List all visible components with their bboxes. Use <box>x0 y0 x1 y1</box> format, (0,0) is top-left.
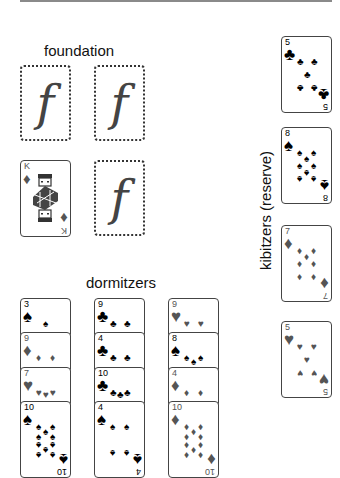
card-rank: 5 <box>323 387 328 396</box>
spade-icon: ♠ <box>110 448 115 458</box>
heart-icon: ♥ <box>43 390 49 400</box>
dormitzer-col3-card4[interactable]: 10 ♦ ♦ ♦ ♦ ♦ ♦ ♦ ♦ ♦ ♦ ♦ ♦ 10 <box>168 401 219 478</box>
foundation-slot-4[interactable]: f <box>94 160 145 236</box>
club-icon: ♣ <box>124 388 131 398</box>
spade-icon: ♠ <box>43 427 48 437</box>
diamond-icon: ♦ <box>50 353 55 363</box>
diamond-icon: ♦ <box>297 272 302 282</box>
spade-icon: ♠ <box>304 154 309 164</box>
card-rank: K <box>61 226 67 235</box>
club-icon: ♣ <box>311 83 318 93</box>
heart-icon: ♥ <box>311 342 317 352</box>
diamond-icon: ♦ <box>198 388 203 398</box>
empty-foundation-icon: f <box>111 174 129 222</box>
spade-icon: ♠ <box>23 411 32 428</box>
spade-icon: ♠ <box>304 168 309 178</box>
spade-icon: ♠ <box>311 161 316 171</box>
heart-icon: ♥ <box>297 368 303 378</box>
diamond-icon: ♦ <box>207 451 216 468</box>
spade-icon: ♠ <box>133 451 142 468</box>
reserve-card-3[interactable]: 7 ♦ ♦ ♦ ♦ ♦ ♦ ♦ ♦ ♦ 7 <box>281 225 332 302</box>
club-icon: ♣ <box>297 57 304 67</box>
spade-icon: ♠ <box>43 445 48 455</box>
club-icon: ♣ <box>97 308 108 325</box>
card-rank: 5 <box>323 102 328 111</box>
card-rank: 10 <box>57 467 67 476</box>
diamond-icon: ♦ <box>311 272 316 282</box>
card-rank: 4 <box>136 467 141 476</box>
spade-icon: ♠ <box>297 161 302 171</box>
spade-icon: ♠ <box>198 353 203 363</box>
foundation-slot-2[interactable]: f <box>94 65 145 141</box>
empty-foundation-icon: f <box>111 79 129 127</box>
diamond-icon: ♦ <box>191 445 196 455</box>
spade-icon: ♠ <box>59 451 68 468</box>
spade-icon: ♠ <box>320 177 329 194</box>
club-icon: ♣ <box>318 86 329 103</box>
diamond-icon: ♦ <box>171 411 180 428</box>
foundation-slot-1[interactable]: f <box>20 65 71 141</box>
club-icon: ♣ <box>110 388 117 398</box>
spade-icon: ♠ <box>297 148 302 158</box>
spade-icon: ♠ <box>311 174 316 184</box>
heart-icon: ♥ <box>184 319 190 329</box>
dormitzer-col2-card4[interactable]: 4 ♠ ♠ ♠ ♠ ♠ ♠ 4 <box>94 401 145 478</box>
reserve-card-1[interactable]: 5 ♣ ♣ ♣ ♣ ♣ ♣ ♣ 5 <box>281 36 332 113</box>
club-icon: ♣ <box>110 319 117 329</box>
diamond-icon: ♦ <box>23 342 32 359</box>
club-icon: ♣ <box>284 46 295 63</box>
club-icon: ♣ <box>117 390 124 400</box>
spade-icon: ♠ <box>124 422 129 432</box>
spade-icon: ♠ <box>110 422 115 432</box>
spade-icon: ♠ <box>23 308 32 325</box>
club-icon: ♣ <box>124 319 131 329</box>
heart-icon: ♥ <box>198 319 204 329</box>
card-rank: 8 <box>323 193 328 202</box>
heart-icon: ♥ <box>171 308 181 325</box>
reserve-label: kibitzers (reserve) <box>257 141 274 281</box>
spade-icon: ♠ <box>124 448 129 458</box>
foundation-slot-3-king-of-diamonds[interactable]: K ♦ ♦ K <box>20 160 71 237</box>
heart-icon: ♥ <box>50 388 56 398</box>
spade-icon: ♠ <box>36 450 41 460</box>
heart-icon: ♥ <box>36 388 42 398</box>
spade-icon: ♠ <box>311 148 316 158</box>
card-rank: 10 <box>205 467 215 476</box>
spade-icon: ♠ <box>284 137 293 154</box>
king-face-icon <box>30 173 61 223</box>
reserve-card-4[interactable]: 5 ♥ ♥ ♥ ♥ ♥ ♥ ♥ 5 <box>281 321 332 398</box>
heart-icon: ♥ <box>311 368 317 378</box>
spade-icon: ♠ <box>50 450 55 460</box>
spade-icon: ♠ <box>184 353 189 363</box>
diamond-icon: ♦ <box>320 275 329 292</box>
diamond-icon: ♦ <box>184 450 189 460</box>
diamond-icon: ♦ <box>191 427 196 437</box>
spade-icon: ♠ <box>43 319 48 329</box>
spade-icon: ♠ <box>191 357 196 367</box>
diamond-icon: ♦ <box>297 259 302 269</box>
dormitzers-label: dormitzers <box>86 274 156 291</box>
diamond-icon: ♦ <box>311 259 316 269</box>
heart-icon: ♥ <box>284 331 294 348</box>
heart-icon: ♥ <box>297 342 303 352</box>
spade-icon: ♠ <box>50 440 55 450</box>
club-icon: ♣ <box>97 377 108 394</box>
dormitzer-col1-card4[interactable]: 10 ♠ ♠ ♠ ♠ ♠ ♠ ♠ ♠ ♠ ♠ ♠ ♠ 10 <box>20 401 71 478</box>
diamond-icon: ♦ <box>198 450 203 460</box>
diamond-icon: ♦ <box>311 246 316 256</box>
club-icon: ♣ <box>124 353 131 363</box>
diamond-icon: ♦ <box>297 246 302 256</box>
diamond-icon: ♦ <box>60 211 68 226</box>
club-icon: ♣ <box>297 83 304 93</box>
empty-foundation-icon: f <box>37 79 55 127</box>
diamond-icon: ♦ <box>284 235 293 252</box>
diamond-icon: ♦ <box>304 252 309 262</box>
club-icon: ♣ <box>311 57 318 67</box>
heart-icon: ♥ <box>23 377 33 394</box>
club-icon: ♣ <box>97 342 108 359</box>
reserve-card-2[interactable]: 8 ♠ ♠ ♠ ♠ ♠ ♠ ♠ ♠ ♠ ♠ 8 <box>281 127 332 204</box>
top-divider <box>20 0 332 2</box>
club-icon: ♣ <box>110 353 117 363</box>
club-icon: ♣ <box>304 70 311 80</box>
spade-icon: ♠ <box>97 411 106 428</box>
